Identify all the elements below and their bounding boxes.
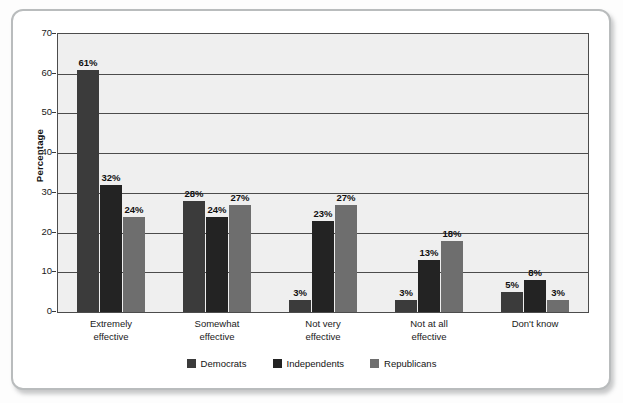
bar-value-label: 28% <box>184 188 203 199</box>
legend-item[interactable]: Democrats <box>187 358 247 369</box>
x-axis-label: Not veryeffective <box>270 318 376 343</box>
bar-value-label: 3% <box>399 287 413 298</box>
bar[interactable]: 23% <box>312 221 334 312</box>
y-tick-mark-40 <box>52 152 56 153</box>
bar-value-label: 3% <box>551 287 565 298</box>
bar[interactable]: 24% <box>123 217 145 312</box>
y-tick-label-0: 0 <box>26 306 52 316</box>
y-tick-mark-20 <box>52 232 56 233</box>
bar-group: 5%8%3% <box>482 34 588 312</box>
x-axis-label-line: Extremely <box>58 318 164 331</box>
y-tick-label-50: 50 <box>26 107 52 117</box>
x-axis-label-line: Don't know <box>482 318 588 331</box>
legend-label: Democrats <box>201 358 247 369</box>
y-tick-label-10: 10 <box>26 266 52 276</box>
bar-value-label: 8% <box>528 267 542 278</box>
bar-value-label: 27% <box>230 192 249 203</box>
bar-value-label: 23% <box>313 208 332 219</box>
legend-label: Independents <box>287 358 345 369</box>
bar[interactable]: 3% <box>289 300 311 312</box>
bar-value-label: 24% <box>124 204 143 215</box>
y-tick-mark-10 <box>52 271 56 272</box>
bars-layer: 61%32%24%28%24%27%3%23%27%3%13%18%5%8%3% <box>58 34 588 312</box>
screenshot-root: Percentage 706050403020100 61%32%24%28%2… <box>0 0 623 403</box>
y-tick-label-70: 70 <box>26 28 52 38</box>
bar[interactable]: 61% <box>77 70 99 312</box>
bar[interactable]: 18% <box>441 241 463 312</box>
chart-legend: DemocratsIndependentsRepublicans <box>0 358 623 369</box>
x-axis-label-line: Not at all <box>376 318 482 331</box>
legend-swatch-icon <box>273 359 282 368</box>
bar-value-label: 24% <box>207 204 226 215</box>
legend-item[interactable]: Republicans <box>370 358 436 369</box>
y-tick-mark-0 <box>52 311 56 312</box>
bar-value-label: 32% <box>101 172 120 183</box>
bar-group: 61%32%24% <box>58 34 164 312</box>
bar[interactable]: 3% <box>395 300 417 312</box>
bar-value-label: 27% <box>336 192 355 203</box>
bar-value-label: 61% <box>78 57 97 68</box>
y-tick-label-60: 60 <box>26 68 52 78</box>
legend-label: Republicans <box>384 358 436 369</box>
bar-value-label: 18% <box>442 228 461 239</box>
y-tick-mark-50 <box>52 112 56 113</box>
bar-group: 28%24%27% <box>164 34 270 312</box>
x-axis-label-line: effective <box>58 331 164 344</box>
bar[interactable]: 32% <box>100 185 122 312</box>
y-tick-label-40: 40 <box>26 147 52 157</box>
bar-value-label: 13% <box>419 247 438 258</box>
x-axis-label: Somewhateffective <box>164 318 270 343</box>
bar[interactable]: 24% <box>206 217 228 312</box>
x-axis-label-line: effective <box>270 331 376 344</box>
x-axis-label-line: effective <box>376 331 482 344</box>
bar[interactable]: 5% <box>501 292 523 312</box>
bar[interactable]: 3% <box>547 300 569 312</box>
bar[interactable]: 8% <box>524 280 546 312</box>
y-tick-mark-70 <box>52 33 56 34</box>
x-axis-label: Not at alleffective <box>376 318 482 343</box>
x-axis-label-line: effective <box>164 331 270 344</box>
y-tick-label-30: 30 <box>26 187 52 197</box>
grouped-bar-chart: Percentage 706050403020100 61%32%24%28%2… <box>0 0 623 403</box>
bar[interactable]: 27% <box>335 205 357 312</box>
legend-item[interactable]: Independents <box>273 358 345 369</box>
y-axis-ticks: 706050403020100 <box>22 33 52 313</box>
legend-swatch-icon <box>370 359 379 368</box>
bar-value-label: 3% <box>293 287 307 298</box>
x-axis-label-line: Somewhat <box>164 318 270 331</box>
y-tick-mark-60 <box>52 73 56 74</box>
x-axis-label: Extremelyeffective <box>58 318 164 343</box>
bar[interactable]: 27% <box>229 205 251 312</box>
x-axis-label-line: Not very <box>270 318 376 331</box>
x-axis-category-labels: ExtremelyeffectiveSomewhateffectiveNot v… <box>58 318 588 352</box>
bar[interactable]: 13% <box>418 260 440 312</box>
bar[interactable]: 28% <box>183 201 205 312</box>
x-axis-label: Don't know <box>482 318 588 331</box>
y-tick-label-20: 20 <box>26 227 52 237</box>
bar-group: 3%23%27% <box>270 34 376 312</box>
bar-group: 3%13%18% <box>376 34 482 312</box>
legend-swatch-icon <box>187 359 196 368</box>
y-tick-mark-30 <box>52 192 56 193</box>
bar-value-label: 5% <box>505 279 519 290</box>
